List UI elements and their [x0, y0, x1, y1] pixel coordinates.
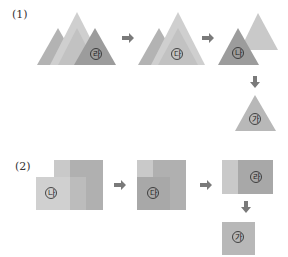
arrow-right-icon: [202, 33, 214, 43]
square-stack-2: 다: [137, 160, 186, 210]
arrow-right-icon: [200, 180, 212, 190]
triangle-stack-4: 라: [37, 12, 116, 65]
arrow-down-icon: [241, 201, 251, 213]
square-single: 가: [222, 222, 255, 255]
mark-da: 다: [150, 189, 158, 198]
mark-ga: 가: [252, 115, 260, 124]
mark-da: 다: [174, 50, 182, 59]
square-stack-1: 라: [222, 160, 273, 194]
mark-ra: 라: [93, 50, 101, 59]
mark-na: 나: [48, 189, 56, 198]
square-stack-3: 나: [36, 160, 103, 210]
arrow-down-icon: [250, 76, 260, 88]
triangle-single: 가: [235, 95, 276, 131]
triangle-stack-3: 다: [138, 12, 205, 65]
mark-ga: 가: [235, 233, 243, 242]
diagram-canvas: 라 다 나 가 나 다: [0, 0, 288, 257]
mark-ra: 라: [253, 173, 261, 182]
arrow-right-icon: [114, 180, 126, 190]
triangle-stack-2: 나: [218, 13, 278, 65]
arrow-right-icon: [122, 33, 134, 43]
mark-na: 나: [235, 49, 243, 58]
